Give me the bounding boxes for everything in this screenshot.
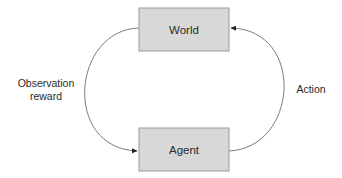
agent-label: Agent xyxy=(169,144,200,156)
observation-reward-arrow xyxy=(85,28,139,151)
world-agent-diagram: World Agent Observation reward Action xyxy=(0,0,342,178)
world-label: World xyxy=(169,24,199,36)
reward-label: reward xyxy=(30,90,62,102)
observation-label: Observation xyxy=(18,77,75,89)
agent-node: Agent xyxy=(139,128,229,171)
world-node: World xyxy=(139,8,229,51)
action-arrow xyxy=(229,28,284,151)
action-label: Action xyxy=(296,83,325,95)
